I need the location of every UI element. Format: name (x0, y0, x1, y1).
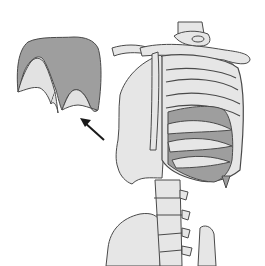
isolated-diaphragm (17, 37, 101, 113)
anatomy-illustration (0, 0, 265, 266)
arrow-icon (80, 118, 104, 140)
scapula (112, 45, 170, 184)
spine (154, 180, 192, 266)
diaphragm-in-situ (168, 106, 233, 188)
diagram-canvas (0, 0, 265, 266)
